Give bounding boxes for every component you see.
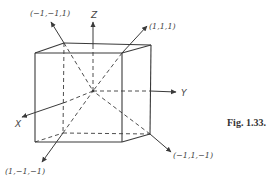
axis-y bbox=[93, 91, 176, 92]
axis-label-y: Y bbox=[181, 88, 188, 98]
cube-visible-edges bbox=[35, 43, 151, 142]
vertex-label-bottom-back-right: (−1,1,−1) bbox=[173, 151, 213, 160]
axis-label-x: X bbox=[14, 119, 22, 129]
axis-x bbox=[22, 91, 93, 117]
vertex-label-top-front-right: (1,1,1) bbox=[149, 22, 176, 31]
cube-hidden-edges bbox=[35, 43, 150, 142]
vertex-label-bottom-back-left: (1,−1,−1) bbox=[5, 167, 45, 176]
axis-label-z: Z bbox=[90, 10, 98, 20]
origin-point bbox=[92, 90, 95, 93]
cube-front-face bbox=[35, 53, 122, 142]
vertex-label-top-back-left: (−1,−1,1) bbox=[30, 9, 70, 18]
cube-diagonals bbox=[63, 43, 150, 134]
vertex-arrows bbox=[42, 22, 171, 162]
figure-caption: Fig. 1.33. bbox=[227, 117, 266, 128]
cube-diagram: Z Y X (−1,−1,1) (1,1,1) (1,−1,−1) (−1,1,… bbox=[0, 0, 274, 184]
